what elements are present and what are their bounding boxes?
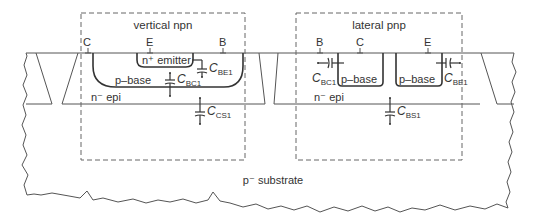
pnp-emitter-region-label: p–base [399, 73, 435, 85]
vertical-npn-label: vertical npn [134, 19, 193, 31]
npn-cbc1-label: CBC1 [177, 72, 202, 88]
bjt-cross-section-diagram: vertical npn lateral pnp C E B n⁺ emitte… [0, 0, 541, 220]
npn-ccs1-label: CCS1 [207, 104, 232, 120]
pnp-cbc1-label: CBC1 [312, 71, 337, 87]
npn-terminals: C E B [83, 36, 226, 53]
lateral-pnp-label: lateral pnp [352, 19, 406, 31]
npn-collector-terminal: C [83, 36, 91, 48]
npn-emitter-region-label: n⁺ emitter [142, 54, 191, 66]
pnp-terminals: B C E [316, 36, 431, 53]
npn-ccs1-capacitor-icon [195, 97, 205, 125]
npn-cbc1-capacitor-icon [165, 72, 175, 97]
pnp-collector-terminal: C [356, 36, 364, 48]
npn-base-terminal: B [219, 36, 226, 48]
pnp-cbs1-label: CBS1 [397, 104, 421, 120]
pnp-epi-label: n⁻ epi [314, 91, 344, 103]
npn-cbe1-label: CBE1 [209, 61, 233, 77]
pnp-cbe1-label: CBE1 [444, 71, 468, 87]
pnp-cbe1-capacitor-icon [436, 58, 461, 68]
pnp-cbc1-capacitor-icon [317, 58, 344, 68]
pnp-base-terminal: B [316, 36, 323, 48]
npn-cbe1-capacitor-icon [192, 60, 207, 78]
pnp-collector-region-label: p–base [341, 73, 377, 85]
pnp-emitter-terminal: E [424, 36, 431, 48]
npn-base-region-label: p–base [115, 74, 151, 86]
npn-emitter-terminal: E [146, 36, 153, 48]
substrate-label: p⁻ substrate [243, 174, 303, 186]
pnp-cbs1-capacitor-icon [385, 97, 395, 125]
npn-epi-label: n⁻ epi [91, 91, 121, 103]
